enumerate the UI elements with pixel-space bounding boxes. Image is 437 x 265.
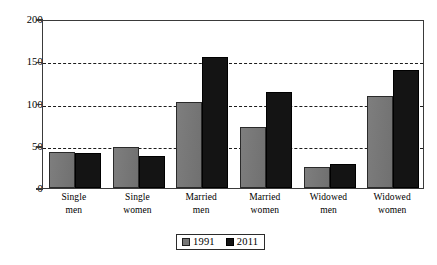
x-axis-label-line: women xyxy=(360,204,424,217)
legend-entry-2011: 2011 xyxy=(226,237,258,247)
bars-layer xyxy=(43,21,423,188)
plot-area xyxy=(42,20,424,189)
x-axis-label-line: Married xyxy=(186,192,217,202)
legend-swatch-icon-1991 xyxy=(182,238,190,246)
legend-entry-1991: 1991 xyxy=(182,237,215,247)
bar xyxy=(330,164,356,189)
x-axis-label: Singlemen xyxy=(42,191,106,216)
bar xyxy=(304,167,330,188)
y-axis: 050100150200 xyxy=(0,0,43,200)
x-axis-label-line: Single xyxy=(125,192,150,202)
x-axis-label: Marriedmen xyxy=(169,191,233,216)
bar-chart: 050100150200 SinglemenSinglewomenMarried… xyxy=(0,0,437,265)
x-axis-label-line: Widowed xyxy=(310,192,347,202)
x-axis-label: Marriedwomen xyxy=(233,191,297,216)
bar xyxy=(393,70,419,188)
x-axis-label-line: Widowed xyxy=(374,192,411,202)
x-axis-label-line: men xyxy=(169,204,233,217)
legend-swatch-icon-2011 xyxy=(226,238,234,246)
bar xyxy=(266,92,292,188)
x-axis-category-labels: SinglemenSinglewomenMarriedmenMarriedwom… xyxy=(42,191,424,227)
bar xyxy=(75,153,101,188)
x-axis-label-line: women xyxy=(233,204,297,217)
bar xyxy=(367,96,393,188)
bar xyxy=(176,102,202,188)
x-axis-label-line: Married xyxy=(249,192,280,202)
legend-label-1991: 1991 xyxy=(193,237,215,247)
legend-label-2011: 2011 xyxy=(237,237,258,247)
x-axis-label-line: women xyxy=(106,204,170,217)
bar xyxy=(49,152,75,188)
x-axis-label: Widowedwomen xyxy=(360,191,424,216)
x-axis-label: Widowedmen xyxy=(297,191,361,216)
x-axis-label-line: Single xyxy=(61,192,86,202)
x-axis-label-line: men xyxy=(42,204,106,217)
bar xyxy=(113,147,139,188)
x-axis-label-line: men xyxy=(297,204,361,217)
bar xyxy=(240,127,266,188)
bar xyxy=(139,156,165,188)
x-axis-label: Singlewomen xyxy=(106,191,170,216)
legend: 1991 2011 xyxy=(176,234,265,250)
bar xyxy=(202,57,228,188)
